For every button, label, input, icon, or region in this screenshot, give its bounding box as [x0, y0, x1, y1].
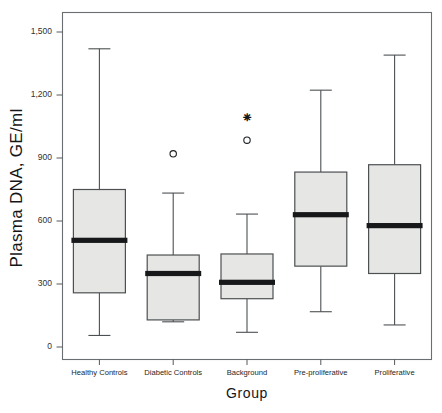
- y-tick-label: 0: [47, 341, 52, 351]
- x-tick-label: Proliferative: [375, 368, 415, 377]
- median-bar: [71, 238, 127, 243]
- y-tick-label: 1,200: [31, 89, 53, 99]
- median-bar: [367, 223, 423, 228]
- y-tick-label: 1,500: [31, 26, 53, 36]
- boxplot-chart: 03006009001,2001,500 Healthy ControlsDia…: [0, 0, 442, 413]
- x-tick-label: Pre-proliferative: [294, 368, 348, 377]
- y-tick-label: 300: [38, 278, 52, 288]
- median-bar: [219, 280, 275, 285]
- y-tick-label: 900: [38, 152, 52, 162]
- boxplot-figure: 03006009001,2001,500 Healthy ControlsDia…: [0, 0, 442, 413]
- y-tick-label: 600: [38, 215, 52, 225]
- extreme-value-marker: ✳: [243, 112, 251, 123]
- y-axis-title: Plasma DNA, GE/ml: [7, 108, 26, 267]
- x-tick-label: Background: [227, 368, 268, 377]
- x-tick-label: Healthy Controls: [71, 368, 127, 377]
- iqr-box: [147, 255, 199, 320]
- x-axis-title: Group: [226, 385, 268, 401]
- iqr-box: [369, 165, 421, 274]
- median-bar: [293, 212, 349, 217]
- iqr-box: [221, 254, 273, 299]
- median-bar: [145, 271, 201, 276]
- x-tick-label: Diabetic Controls: [144, 368, 202, 377]
- iqr-box: [295, 172, 347, 266]
